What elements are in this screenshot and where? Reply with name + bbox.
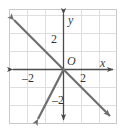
graph-figure: x y O –2 2 2 –2 [0, 0, 126, 137]
y-axis-label: y [68, 14, 73, 26]
x-tick-positive-two: 2 [80, 72, 86, 84]
y-tick-negative-two: –2 [52, 94, 64, 106]
origin-label: O [67, 55, 76, 67]
x-axis-label: x [100, 57, 105, 69]
coordinate-plane [0, 0, 126, 137]
x-tick-negative-two: –2 [22, 72, 34, 84]
y-tick-positive-two: 2 [51, 33, 57, 45]
